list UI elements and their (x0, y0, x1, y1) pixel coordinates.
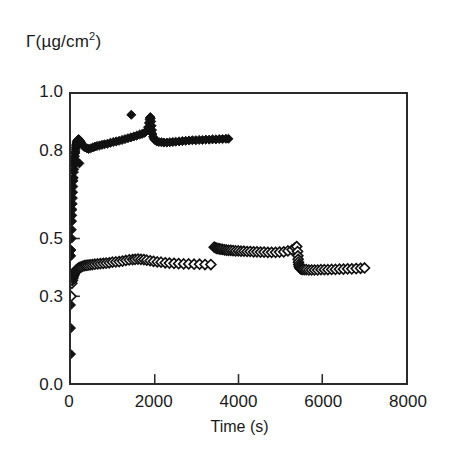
data-point-filled-diamond (127, 110, 136, 119)
y-tick-label: 0.8 (17, 141, 63, 161)
y-tick-label: 0.5 (17, 229, 63, 249)
y-axis-label-base: Γ(µg/cm (26, 32, 89, 51)
y-tick-label: 1.0 (17, 82, 63, 102)
x-axis-label: Time (s) (0, 418, 455, 436)
plot-area (71, 94, 406, 383)
y-axis-label: Γ(µg/cm2) (26, 30, 101, 52)
x-tick-label: 0 (64, 392, 73, 412)
data-point-filled-diamond (71, 225, 76, 234)
data-point-filled-diamond (71, 350, 76, 359)
x-tick-label: 4000 (220, 392, 258, 412)
x-tick-label: 2000 (135, 392, 173, 412)
x-axis-tick-labels: 02000400060008000 (69, 392, 408, 416)
data-point-filled-diamond (71, 300, 76, 309)
series-open-diamond (71, 242, 369, 302)
x-axis-label-text: Time (s) (210, 418, 268, 435)
y-axis-tick-labels: 0.00.30.50.81.0 (13, 92, 63, 385)
series-filled-diamond (71, 110, 233, 358)
x-tick-label: 8000 (389, 392, 427, 412)
y-tick-label: 0.0 (17, 375, 63, 395)
chart-figure: Γ(µg/cm2) 0.00.30.50.81.0 02000400060008… (0, 0, 455, 465)
y-axis-label-close: ) (95, 32, 101, 51)
data-point-filled-diamond (71, 324, 76, 333)
y-tick-label: 0.3 (17, 287, 63, 307)
data-point-open-diamond (71, 291, 76, 301)
plot-frame (69, 92, 408, 385)
x-tick-label: 6000 (304, 392, 342, 412)
data-point-filled-diamond (71, 234, 76, 243)
